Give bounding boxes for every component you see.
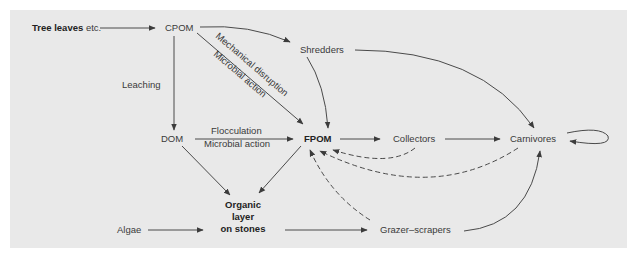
- node-organic-line3: on stones: [221, 223, 266, 234]
- node-organic-line2: layer: [232, 211, 254, 222]
- node-tree-leaves: Tree leaves etc.: [32, 22, 101, 33]
- edge-carnivores-selfloop: [567, 130, 608, 143]
- node-shredders: Shredders: [300, 44, 344, 55]
- edge-collectors-fpom-dashed: [333, 148, 415, 159]
- node-dom: DOM: [161, 133, 183, 144]
- label-microbial-action-horiz: Microbial action: [204, 138, 270, 149]
- node-cpom: CPOM: [165, 22, 194, 33]
- node-tree-leaves-rest: etc.: [83, 22, 101, 33]
- edge-dom-organic: [182, 146, 230, 195]
- node-algae: Algae: [117, 224, 141, 235]
- food-web-diagram: Tree leaves etc. CPOM Shredders DOM FPOM…: [0, 0, 638, 260]
- edge-carnivores-fpom-dashed: [320, 148, 518, 177]
- edge-grazer-carnivores: [464, 151, 540, 231]
- label-flocculation: Flocculation: [211, 125, 262, 136]
- node-fpom: FPOM: [304, 133, 332, 144]
- node-tree-leaves-bold: Tree leaves: [32, 22, 83, 33]
- node-grazer-scrapers: Grazer–scrapers: [380, 224, 451, 235]
- label-leaching: Leaching: [122, 79, 161, 90]
- edge-cpom-shredders: [200, 27, 290, 42]
- node-carnivores: Carnivores: [510, 133, 556, 144]
- edge-shredders-carnivores: [355, 50, 534, 128]
- edge-shredders-fpom: [307, 57, 328, 128]
- node-collectors: Collectors: [393, 133, 435, 144]
- node-organic-line1: Organic: [225, 199, 261, 210]
- edge-fpom-organic: [259, 146, 301, 193]
